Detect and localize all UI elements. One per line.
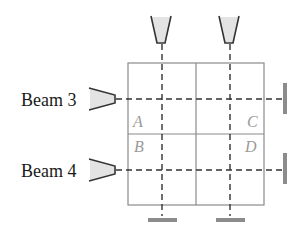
right-detector-beam-3 xyxy=(283,83,287,114)
grid xyxy=(128,63,264,205)
beam-3-label: Beam 3 xyxy=(21,91,77,109)
right-detector-beam-4 xyxy=(283,153,287,184)
cell-label-c: C xyxy=(247,114,258,130)
bottom-detector-2 xyxy=(216,218,245,222)
left-emitter-beam-3 xyxy=(89,88,115,110)
beam-4-label: Beam 4 xyxy=(21,162,77,180)
left-emitter-beam-4 xyxy=(89,159,115,181)
cell-label-d: D xyxy=(245,139,257,155)
top-emitter-1 xyxy=(151,16,171,43)
bottom-detector-1 xyxy=(148,218,177,222)
cell-label-b: B xyxy=(134,139,144,155)
diagram-canvas xyxy=(0,0,305,234)
top-emitter-2 xyxy=(219,16,239,43)
cell-label-a: A xyxy=(133,114,143,130)
beam-grid-diagram: Beam 3 Beam 4 A B C D xyxy=(0,0,305,234)
